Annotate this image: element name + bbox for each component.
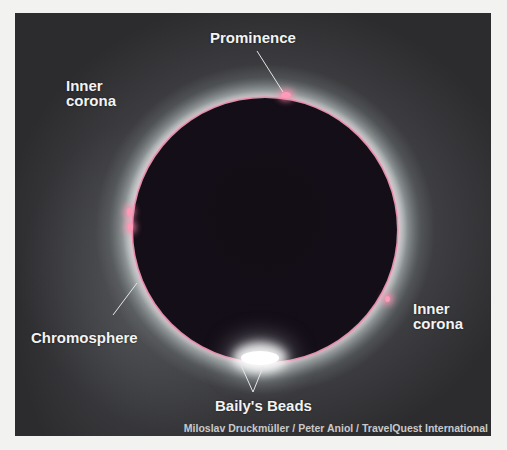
moon-disk [133,98,397,362]
label-prominence: Prominence [210,30,296,45]
label-bailys-beads: Baily's Beads [215,398,312,413]
label-inner-corona-left: Inner corona [66,78,116,108]
prominence-right-small [385,296,390,302]
prominence-left-small [127,208,132,216]
label-inner-corona-right-line1: Inner [413,301,463,316]
label-inner-corona-left-line1: Inner [66,78,116,93]
eclipse-photo: Prominence Inner corona Inner corona Chr… [15,13,491,436]
photo-credit: Miloslav Druckmüller / Peter Aniol / Tra… [184,423,488,434]
bailys-beads-glow [241,351,279,365]
prominence-flare [281,92,291,98]
label-inner-corona-left-line2: corona [66,93,116,108]
label-chromosphere: Chromosphere [31,330,138,345]
prominence-left-small-2 [128,223,133,231]
label-inner-corona-right: Inner corona [413,301,463,331]
label-inner-corona-right-line2: corona [413,316,463,331]
